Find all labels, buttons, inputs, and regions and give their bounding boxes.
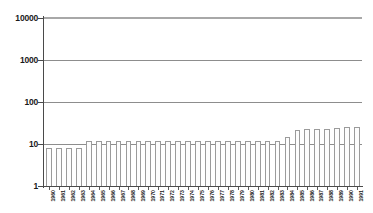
bar-slot xyxy=(344,18,350,186)
x-axis-line xyxy=(43,186,363,187)
x-axis-label: 1988 xyxy=(329,190,334,202)
bar xyxy=(185,141,191,186)
bar xyxy=(86,141,92,186)
bar-slot xyxy=(155,18,161,186)
x-axis-label: 1973 xyxy=(180,190,185,202)
x-axis-label: 1980 xyxy=(250,190,255,202)
bar xyxy=(136,141,142,186)
y-axis-label: 10 xyxy=(29,140,38,149)
bar xyxy=(334,128,340,186)
x-axis-label: 1972 xyxy=(170,190,175,202)
x-axis-label: 1967 xyxy=(121,190,126,202)
x-axis-label: 1981 xyxy=(260,190,265,202)
x-axis-label: 1983 xyxy=(280,190,285,202)
bar-slot xyxy=(185,18,191,186)
x-axis-label: 1978 xyxy=(230,190,235,202)
bar-slot xyxy=(46,18,52,186)
bar-slot xyxy=(314,18,320,186)
bar-slot xyxy=(295,18,301,186)
bar xyxy=(235,141,241,186)
bars-layer xyxy=(44,18,362,186)
x-axis-label: 1961 xyxy=(61,190,66,202)
x-axis-label: 1990 xyxy=(349,190,354,202)
bar-slot xyxy=(145,18,151,186)
bar xyxy=(145,141,151,186)
bar xyxy=(324,129,330,186)
bar xyxy=(205,141,211,186)
bar xyxy=(265,141,271,186)
bar-slot xyxy=(165,18,171,186)
bar xyxy=(275,141,281,186)
bar-slot xyxy=(175,18,181,186)
bar xyxy=(255,141,261,186)
bar-slot xyxy=(354,18,360,186)
bar-slot xyxy=(195,18,201,186)
bar-slot xyxy=(215,18,221,186)
bar xyxy=(56,148,62,186)
bar-slot xyxy=(334,18,340,186)
bar-slot xyxy=(265,18,271,186)
bar xyxy=(96,141,102,186)
bar xyxy=(66,148,72,186)
bar-slot xyxy=(66,18,72,186)
x-axis-label: 1975 xyxy=(200,190,205,202)
x-axis-label: 1962 xyxy=(71,190,76,202)
bar-slot xyxy=(275,18,281,186)
x-axis-label: 1976 xyxy=(210,190,215,202)
bar-slot xyxy=(56,18,62,186)
bar xyxy=(76,148,82,186)
x-axis-label: 1987 xyxy=(319,190,324,202)
y-axis-label: 10000 xyxy=(15,14,38,23)
y-axis-label: 100 xyxy=(24,98,38,107)
x-axis-label: 1960 xyxy=(51,190,56,202)
bar-slot xyxy=(116,18,122,186)
bar-slot xyxy=(225,18,231,186)
bar xyxy=(116,141,122,186)
bar xyxy=(314,129,320,186)
bar-slot xyxy=(285,18,291,186)
x-axis-label: 1969 xyxy=(141,190,146,202)
y-axis-label: 1000 xyxy=(20,56,38,65)
bar xyxy=(354,127,360,186)
x-axis-label: 1984 xyxy=(290,190,295,202)
bar xyxy=(215,141,221,186)
bar xyxy=(225,141,231,186)
bar-slot xyxy=(205,18,211,186)
x-axis-label: 1965 xyxy=(101,190,106,202)
x-axis-label: 1964 xyxy=(91,190,96,202)
bar xyxy=(344,127,350,186)
bar xyxy=(195,141,201,186)
bar-slot xyxy=(245,18,251,186)
bar-slot xyxy=(136,18,142,186)
bar xyxy=(175,141,181,186)
x-axis-label: 1985 xyxy=(300,190,305,202)
x-axis-label: 1977 xyxy=(220,190,225,202)
x-axis-label: 1982 xyxy=(270,190,275,202)
x-axis-label: 1986 xyxy=(310,190,315,202)
bar xyxy=(106,141,112,186)
bar-slot xyxy=(324,18,330,186)
bar-slot xyxy=(255,18,261,186)
bar xyxy=(155,141,161,186)
x-axis-label: 1979 xyxy=(240,190,245,202)
x-axis-label: 1968 xyxy=(131,190,136,202)
bar-slot xyxy=(235,18,241,186)
x-axis-label: 1974 xyxy=(190,190,195,202)
x-axis-label: 1989 xyxy=(339,190,344,202)
bar xyxy=(245,141,251,186)
bar-slot xyxy=(76,18,82,186)
y-axis-label: 1 xyxy=(33,182,38,191)
x-axis-label: 1971 xyxy=(160,190,165,202)
bar xyxy=(46,148,52,186)
x-axis-label: 1963 xyxy=(81,190,86,202)
bar-slot xyxy=(126,18,132,186)
bar xyxy=(304,129,310,186)
x-axis-label: 1970 xyxy=(151,190,156,202)
bar xyxy=(285,137,291,186)
bar-slot xyxy=(96,18,102,186)
x-axis-labels: 1960196119621963196419651966196719681969… xyxy=(44,190,362,213)
x-axis-label: 1966 xyxy=(111,190,116,202)
bar xyxy=(126,141,132,186)
bar xyxy=(295,130,301,186)
bar xyxy=(165,141,171,186)
